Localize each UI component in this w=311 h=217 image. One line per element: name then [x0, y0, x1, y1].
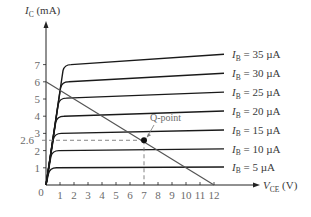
x-tick-label: 10	[181, 189, 193, 201]
y-axis-arrow-icon	[44, 21, 49, 28]
ib-curve-label: IB = 20 µA	[231, 105, 280, 120]
x-tick-label: 1	[57, 189, 63, 201]
q-point: Q-point2.6	[20, 112, 181, 185]
origin-label: 0	[38, 186, 44, 198]
y-tick-label: 3	[35, 127, 41, 139]
ib-curve	[46, 54, 224, 185]
y-tick-label: 2	[35, 145, 41, 157]
x-tick-label: 8	[155, 189, 161, 201]
x-tick-label: 2	[71, 189, 77, 201]
x-tick-label: 12	[209, 189, 220, 201]
ib-curve-label: IB = 15 µA	[231, 124, 280, 139]
x-tick-label: 6	[127, 189, 133, 201]
collector-curves	[46, 54, 224, 185]
y-tick-label: 4	[35, 110, 41, 122]
q-point-label: Q-point	[150, 112, 181, 123]
y-axis-label: IC (mA)	[24, 4, 61, 19]
q-point-marker	[141, 137, 147, 143]
y-tick-label: 1	[35, 162, 41, 174]
ib-curve-label: IB = 35 µA	[231, 48, 280, 63]
curve-labels: IB = 35 µAIB = 30 µAIB = 25 µAIB = 20 µA…	[231, 48, 280, 175]
y-tick-label: 6	[35, 76, 41, 88]
ib-curve-label: IB = 30 µA	[231, 67, 280, 82]
ib-curve	[46, 167, 224, 185]
ib-curve	[46, 111, 224, 185]
transistor-characteristics-chart: 12345678910111201234567IC (mA)VCE (V) IB…	[0, 0, 311, 217]
x-tick-label: 11	[195, 189, 206, 201]
x-tick-label: 4	[99, 189, 105, 201]
q-point-ic-value: 2.6	[20, 134, 34, 146]
x-tick-label: 9	[169, 189, 175, 201]
ib-curve-label: IB = 10 µA	[231, 143, 280, 158]
y-tick-label: 5	[35, 93, 41, 105]
ib-curve-label: IB = 25 µA	[231, 86, 280, 101]
ib-curve	[46, 130, 224, 185]
x-axis-label: VCE (V)	[263, 179, 298, 194]
x-tick-label: 7	[141, 189, 147, 201]
y-tick-label: 7	[35, 59, 41, 71]
x-tick-label: 3	[85, 189, 91, 201]
x-axis-arrow-icon	[253, 183, 260, 188]
ib-curve-label: IB = 5 µA	[231, 161, 275, 176]
x-tick-label: 5	[113, 189, 119, 201]
ib-curve	[46, 92, 224, 185]
